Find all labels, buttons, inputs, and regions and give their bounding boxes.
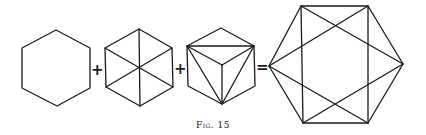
figure-caption: Fig. 15 [0, 120, 426, 130]
hexagon-outline [22, 30, 90, 106]
hexagon-complete [269, 6, 403, 123]
hexagon-cube-projection [187, 28, 255, 104]
hexagon-with-diagonals [105, 29, 173, 106]
figure-canvas: + + = [0, 0, 426, 135]
plus-operator-2: + [174, 60, 187, 78]
plus-operator-1: + [91, 61, 104, 79]
equals-operator: = [256, 58, 269, 76]
